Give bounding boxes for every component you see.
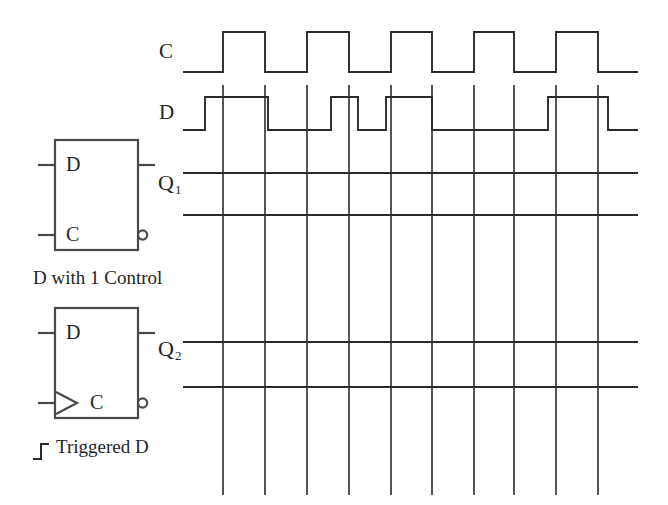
- grid-lines: [223, 85, 598, 495]
- rising-edge-step-glyph: [33, 444, 49, 459]
- signal-label-q1: Q1: [158, 172, 180, 194]
- latch-pin-label-c: C: [66, 224, 79, 244]
- flipflop-pin-label-c: C: [90, 392, 103, 412]
- timing-diagram-page: C D Q1 Q2 D C D with 1 Control D C Trigg…: [0, 0, 668, 505]
- waveform-trace-c: [183, 32, 638, 72]
- q2-base: Q: [158, 336, 174, 361]
- diagram-canvas: [0, 0, 668, 505]
- latch-caption: D with 1 Control: [33, 268, 162, 287]
- q2-subscript: 2: [175, 348, 182, 363]
- waveform-trace-d: [183, 97, 638, 130]
- rising-edge-step-icon: [33, 444, 49, 459]
- q1-subscript: 1: [175, 182, 182, 197]
- signal-label-c: C: [159, 41, 173, 62]
- inverting-output-bubble: [138, 230, 147, 239]
- output-waveform-q1-blank: [183, 173, 638, 215]
- flipflop-pin-label-d: D: [66, 322, 80, 342]
- latch-pin-label-d: D: [66, 154, 80, 174]
- signal-label-q2: Q2: [158, 338, 180, 360]
- d-latch-symbol: [38, 140, 155, 250]
- clock-waveform-c: [183, 32, 638, 72]
- edge-trigger-triangle-icon: [56, 392, 77, 414]
- inverting-output-bubble: [138, 398, 147, 407]
- data-waveform-d: [183, 97, 638, 130]
- q1-base: Q: [158, 170, 174, 195]
- output-waveform-q2-blank: [183, 342, 638, 387]
- signal-label-d: D: [159, 102, 174, 123]
- flipflop-caption: Triggered D: [56, 437, 149, 456]
